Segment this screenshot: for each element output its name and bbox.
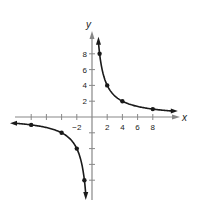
y-tick-label: 8 [83,50,88,59]
x-tick-label: 6 [135,123,140,132]
y-axis-arrow-icon [90,31,95,39]
curve-left-branch [16,123,86,194]
curve-arrow-icon [10,121,17,126]
curve-arrow-icon [83,192,88,200]
hyperbola-chart: xy−224682468 [0,0,201,207]
x-tick-label: 4 [120,123,125,132]
x-tick-label: −2 [72,123,82,132]
data-point [29,123,33,127]
y-axis-label: y [85,19,92,30]
data-point [59,131,63,135]
data-point [82,178,86,182]
data-point [120,99,124,103]
x-tick-label: 2 [105,123,110,132]
y-tick-label: 4 [83,81,88,90]
x-tick-label: 8 [151,123,156,132]
data-point [105,83,109,87]
x-axis-label: x [181,112,188,123]
curve-arrow-icon [96,37,101,45]
data-point [75,146,79,150]
y-tick-label: 2 [83,97,88,106]
y-tick-label: 6 [83,66,88,75]
curve-arrow-icon [171,108,178,113]
data-point [97,52,101,56]
x-axis-arrow-icon [172,115,180,120]
data-point [151,107,155,111]
curve-right-branch [98,43,171,111]
